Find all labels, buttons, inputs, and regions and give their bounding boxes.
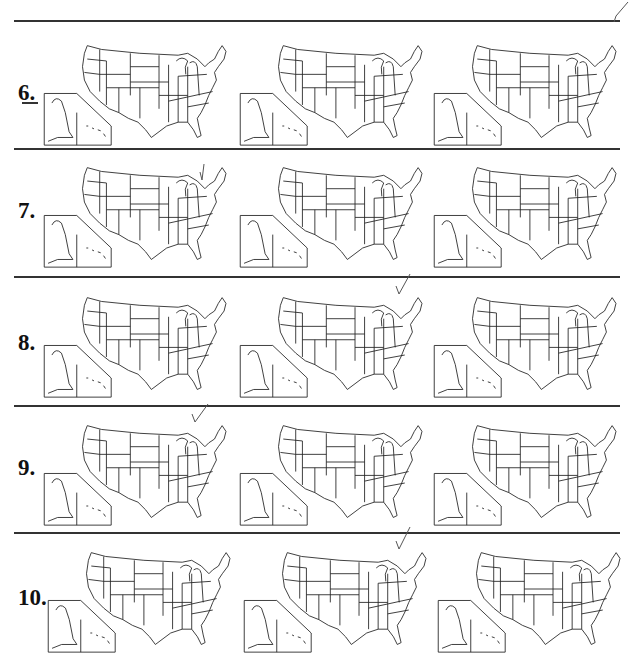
us-map-option-a[interactable] [40,418,235,528]
divider-6-7 [14,148,620,150]
question-number: 10. [18,585,47,611]
question-number: 7. [18,198,35,224]
checkmark-icon [394,272,414,296]
question-number: 9. [18,455,35,481]
us-map-option-b[interactable] [236,160,431,270]
us-map-option-b[interactable] [236,418,431,528]
us-map-option-a[interactable] [40,38,235,148]
us-map-option-a[interactable] [44,545,239,655]
divider-8-9 [14,405,620,407]
divider-7-8 [14,276,620,278]
us-map-option-a[interactable] [40,290,235,400]
question-number: 8. [18,330,35,356]
us-map-option-c[interactable] [430,38,625,148]
divider-9-10 [14,532,620,534]
divider-top [14,20,620,22]
us-map-option-c[interactable] [434,545,629,655]
us-map-option-c[interactable] [430,160,625,270]
us-map-option-b[interactable] [236,38,431,148]
us-map-option-c[interactable] [430,290,625,400]
checkmark-icon [612,0,632,24]
checkmark-icon [190,402,210,426]
us-map-option-b[interactable] [236,290,431,400]
checkmark-icon [196,160,216,184]
checkmark-icon [394,525,414,549]
us-map-option-c[interactable] [430,418,625,528]
pen-mark [22,102,38,104]
us-map-option-b[interactable] [240,545,435,655]
